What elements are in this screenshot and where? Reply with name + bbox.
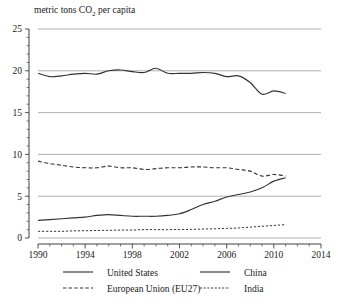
series-line-india <box>38 225 286 232</box>
y-tick-label-5: 5 <box>17 192 22 202</box>
x-tick-label-2014: 2014 <box>312 250 331 260</box>
x-tick-label-2002: 2002 <box>170 250 189 260</box>
x-tick-label-2010: 2010 <box>264 250 283 260</box>
y-tick-label-10: 10 <box>13 150 23 160</box>
x-tick-label-1990: 1990 <box>29 250 48 260</box>
legend-label-united-states: United States <box>107 268 158 278</box>
legend-label-india: India <box>244 284 264 294</box>
y-tick-label-15: 15 <box>13 108 23 118</box>
x-tick-label-1994: 1994 <box>76 250 95 260</box>
x-tick-label-1998: 1998 <box>123 250 142 260</box>
series-line-united-states <box>38 68 286 94</box>
series-line-china <box>38 178 286 221</box>
series-line-european-union-eu27 <box>38 161 286 176</box>
x-tick-label-2006: 2006 <box>217 250 236 260</box>
y-tick-label-25: 25 <box>13 24 23 34</box>
legend-label-european-union-eu27: European Union (EU27) <box>107 284 200 295</box>
chart-container: metric tons CO2 per capita05101520251990… <box>0 0 341 304</box>
y-tick-label-20: 20 <box>13 66 23 76</box>
co2-per-capita-line-chart: metric tons CO2 per capita05101520251990… <box>0 0 341 304</box>
legend-label-china: China <box>244 268 267 278</box>
chart-title: metric tons CO2 per capita <box>34 5 136 18</box>
y-tick-label-0: 0 <box>17 233 22 243</box>
